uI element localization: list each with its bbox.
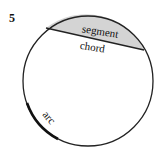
circle-diagram: segment chord arc — [0, 0, 157, 151]
chord-label: chord — [79, 39, 106, 55]
arc-label: arc — [40, 108, 58, 126]
